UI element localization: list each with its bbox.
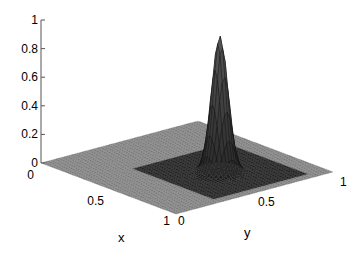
z-tick-0.4: 0.4 <box>21 99 38 113</box>
y-tick-1: 1 <box>340 175 347 189</box>
z-tick-0.2: 0.2 <box>21 127 38 141</box>
x-tick-0: 0 <box>27 168 34 182</box>
y-axis-label: y <box>244 225 251 240</box>
z-tick-0.6: 0.6 <box>21 70 38 84</box>
z-tick-1: 1 <box>31 13 38 27</box>
surface-plot: 00.20.40.60.81 0 0.5 1 0 0.5 1 x y <box>0 0 360 256</box>
y-tick-0.5: 0.5 <box>258 195 275 209</box>
surface-mesh <box>41 36 333 214</box>
x-axis-label: x <box>118 230 125 245</box>
x-tick-0.5: 0.5 <box>87 194 104 208</box>
z-tick-0.8: 0.8 <box>21 42 38 56</box>
y-tick-0: 0 <box>178 214 185 228</box>
x-tick-1: 1 <box>163 214 170 228</box>
